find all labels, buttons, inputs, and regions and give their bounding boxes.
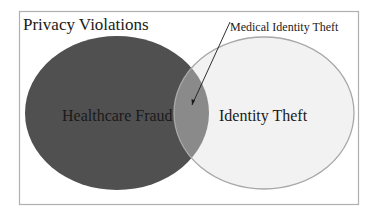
medical-identity-theft-label: Medical Identity Theft (230, 20, 339, 34)
diagram-title: Privacy Violations (23, 15, 149, 34)
venn-diagram: Privacy Violations Healthcare Fraud Iden… (0, 0, 378, 217)
identity-theft-label: Identity Theft (219, 107, 308, 125)
healthcare-fraud-label: Healthcare Fraud (62, 107, 173, 124)
